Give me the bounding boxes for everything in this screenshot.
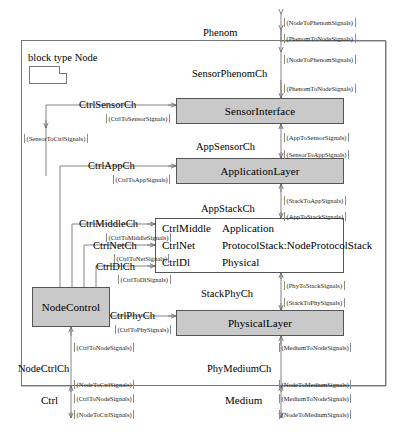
stack-row: CtrlDl Physical <box>156 253 343 270</box>
channel-label-app-stack: AppStackCh <box>201 203 255 214</box>
channel-label-phy-medium: PhyMediumCh <box>207 363 271 374</box>
channel-label-ctrl-phy: CtrlPhyCh <box>110 310 155 321</box>
signal-label: (NodeToMediumSignals) <box>279 410 351 419</box>
stack-row: CtrlNet ProtocolStack:NodeProtocolStack <box>156 236 343 253</box>
signal-label: (PhyToStackSignals) <box>284 281 345 290</box>
channel-label-app-sensor: AppSensorCh <box>196 141 255 152</box>
signal-label: (PhenomToNodeSignals) <box>284 34 356 43</box>
signal-label: (NodeToCtrlSignals) <box>74 380 134 389</box>
signal-label: (SensorToAppSignals) <box>284 150 349 159</box>
signal-label: (CtrlToMiddleSignals) <box>106 233 171 242</box>
signal-label: (SensorToCtrlSignals) <box>24 134 88 143</box>
signal-label: (CtrlToNodeSignals) <box>74 394 134 403</box>
stack-port-label: CtrlDl <box>162 256 222 268</box>
block-diagram-canvas: block type Node <box>0 0 401 434</box>
signal-label: (CtrlToNodeSignals) <box>74 343 134 352</box>
signal-label: (AppToStackSignals) <box>284 212 346 221</box>
stack-part-label: Application <box>222 222 274 234</box>
signal-label: (NodeToCtrlSignals) <box>74 410 134 419</box>
signal-label: (CtrlToAppSignals) <box>113 175 170 184</box>
external-port-medium: Medium <box>225 394 262 406</box>
signal-label: (AppToSensorSignals) <box>284 133 349 142</box>
signal-label: (NodeToPhenomSignals) <box>284 55 356 64</box>
component-sensor-interface[interactable]: SensorInterface <box>176 98 344 124</box>
signal-label: (MediumToNodeSignals) <box>279 394 351 403</box>
signal-label: (NodeToMediumSignals) <box>279 380 351 389</box>
component-label: ApplicationLayer <box>220 165 299 177</box>
signal-label: (CtrlToPhySignals) <box>115 325 171 334</box>
component-node-control[interactable]: NodeControl <box>32 287 110 327</box>
note-fold-corner <box>59 66 67 74</box>
page-title: block type Node <box>28 52 97 63</box>
diagram-note-icon <box>29 66 67 84</box>
component-label: SensorInterface <box>225 105 296 117</box>
channel-label-ctrl-middle: CtrlMiddleCh <box>79 218 138 229</box>
stack-part-label: Physical <box>222 256 259 268</box>
stack-part-label: ProtocolStack:NodeProtocolStack <box>222 239 372 251</box>
signal-label: (CtrlToSensorSignals) <box>106 114 170 123</box>
signal-label: (CtrlToDlSignals) <box>118 275 171 284</box>
component-node-protocol-stack[interactable]: CtrlMiddle Application CtrlNet ProtocolS… <box>155 218 344 273</box>
stack-port-label: CtrlMiddle <box>162 222 222 234</box>
component-label: NodeControl <box>42 301 101 313</box>
component-label: PhysicalLayer <box>228 317 292 329</box>
channel-label-phenom: Phenom <box>203 27 237 38</box>
stack-port-label: CtrlNet <box>162 239 222 251</box>
external-port-ctrl: Ctrl <box>41 394 58 406</box>
channel-label-ctrl-app: CtrlAppCh <box>88 160 135 171</box>
channel-label-sensor-phenom: SensorPhenomCh <box>192 68 267 79</box>
component-application-layer[interactable]: ApplicationLayer <box>176 158 344 184</box>
signal-label: (StackToAppSignals) <box>284 196 346 205</box>
channel-label-stack-phy: StackPhyCh <box>201 288 253 299</box>
signal-label: (CtrlToNetSignals) <box>114 254 169 263</box>
channel-label-node-ctrl: NodeCtrlCh <box>18 363 69 374</box>
signal-label: (PhenomToNodeSignals) <box>284 84 356 93</box>
signal-label: (StackToPhySignals) <box>284 298 345 307</box>
signal-label: (MediumToNodeSignals) <box>279 343 351 352</box>
component-physical-layer[interactable]: PhysicalLayer <box>176 310 344 336</box>
stack-row: CtrlMiddle Application <box>156 219 343 236</box>
channel-label-ctrl-sensor: CtrlSensorCh <box>79 99 136 110</box>
signal-label: (NodeToPhenomSignals) <box>284 18 356 27</box>
